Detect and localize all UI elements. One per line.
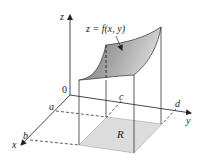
x-tick-b: b: [23, 130, 28, 141]
y-axis: [70, 95, 191, 113]
surface-label: z = f(x, y): [85, 23, 126, 35]
y-tick-d: d: [175, 98, 181, 109]
origin-label: 0: [62, 84, 67, 95]
x-axis: [21, 95, 70, 145]
y-tick-c: c: [119, 91, 124, 102]
surface-diagram: z 0 z = f(x, y) a b x c d y R: [0, 0, 203, 166]
y-axis-label: y: [185, 115, 191, 126]
surface-f: [79, 27, 161, 80]
x-tick-a: a: [49, 101, 54, 112]
region-label: R: [116, 128, 124, 140]
z-axis-label: z: [59, 11, 64, 22]
x-axis-label: x: [11, 139, 17, 150]
